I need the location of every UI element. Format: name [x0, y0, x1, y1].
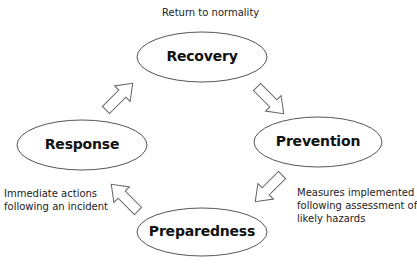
arrow-prevention-to-preparedness-icon	[247, 167, 289, 209]
preparedness-label: Preparedness	[137, 223, 267, 239]
arrow-recovery-to-prevention-icon	[249, 79, 291, 121]
prevention-label: Prevention	[254, 133, 382, 149]
prevention-annotation-line-2: following assessment of	[297, 199, 417, 212]
response-label: Response	[17, 136, 147, 152]
prevention-annotation-line-3: likely hazards	[297, 212, 417, 225]
response-annotation-line-1: Immediate actions	[4, 187, 108, 200]
recovery-label: Recovery	[137, 48, 267, 64]
response-annotation: Immediate actions following an incident	[4, 187, 108, 213]
response-annotation-line-2: following an incident	[4, 200, 108, 213]
arrow-preparedness-to-response-icon	[103, 176, 145, 218]
prevention-annotation-line-1: Measures implemented	[297, 186, 417, 199]
prevention-annotation: Measures implemented following assessmen…	[297, 186, 417, 225]
recovery-annotation: Return to normality	[162, 6, 259, 19]
arrow-response-to-recovery-icon	[98, 75, 140, 117]
